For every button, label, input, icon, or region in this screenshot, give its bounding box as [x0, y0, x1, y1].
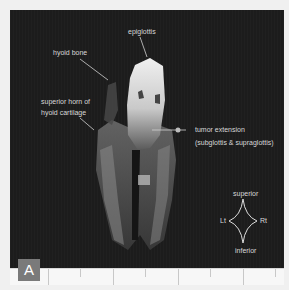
- panel-label: A: [18, 259, 40, 281]
- measurement-ruler: [10, 268, 284, 285]
- label-superior-horn-line1: superior horn of: [41, 98, 90, 107]
- tumor-marker: [176, 128, 181, 133]
- orientation-right: Rt: [260, 217, 267, 226]
- hyoid-tissue: [104, 82, 118, 125]
- orientation-compass-icon: [229, 199, 257, 243]
- label-epiglottis: epiglottis: [128, 28, 156, 37]
- label-superior-horn-line2: hyoid cartilage: [41, 109, 86, 118]
- label-tumor-extension-line2: (subglottis & supraglottis): [195, 139, 274, 148]
- orientation-left: Lt: [220, 217, 226, 226]
- figure-frame: epiglottis hyoid bone superior horn of h…: [0, 0, 289, 290]
- label-tumor-extension-line1: tumor extension: [195, 126, 245, 135]
- label-hyoid-bone: hyoid bone: [53, 49, 87, 58]
- orientation-superior: superior: [233, 190, 258, 199]
- orientation-inferior: inferior: [235, 247, 256, 256]
